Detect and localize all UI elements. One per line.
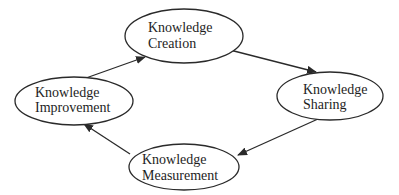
- node-label-line1: Knowledge: [35, 85, 100, 100]
- node-ellipse: [129, 144, 239, 190]
- node-knowledge-improvement: Knowledge Improvement: [15, 77, 133, 125]
- edge-creation-to-sharing: [230, 50, 316, 72]
- node-knowledge-creation: Knowledge Creation: [125, 9, 243, 63]
- edge-sharing-to-measurement: [238, 119, 318, 155]
- node-label-line1: Knowledge: [142, 152, 207, 167]
- node-label-line2: Improvement: [35, 100, 111, 115]
- edge-measurement-to-improvement: [84, 124, 130, 154]
- node-label-line1: Knowledge: [303, 82, 368, 97]
- knowledge-cycle-diagram: Knowledge Creation Knowledge Improvement…: [0, 0, 399, 195]
- node-label-line2: Creation: [148, 36, 196, 51]
- edge-improvement-to-creation: [86, 57, 145, 78]
- node-label-line2: Sharing: [303, 97, 347, 112]
- node-knowledge-measurement: Knowledge Measurement: [129, 144, 239, 190]
- node-knowledge-sharing: Knowledge Sharing: [277, 72, 383, 120]
- node-label-line2: Measurement: [142, 168, 218, 183]
- node-label-line1: Knowledge: [148, 20, 213, 35]
